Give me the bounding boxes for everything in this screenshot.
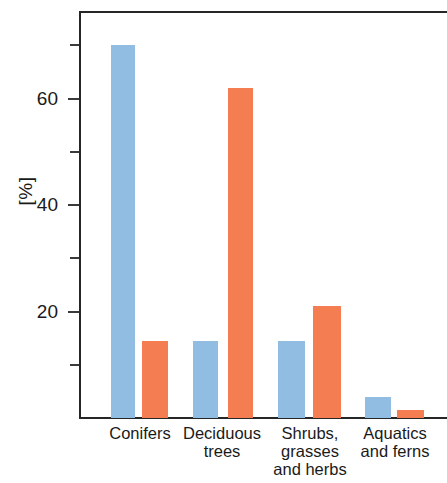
y-tick-minor <box>70 44 79 46</box>
x-axis-label: Aquatics and ferns <box>343 424 447 460</box>
y-tick-minor <box>70 364 79 366</box>
y-tick-minor <box>70 151 79 153</box>
y-tick-minor <box>70 257 79 259</box>
y-tick-label: 40 <box>14 195 58 214</box>
plot-area <box>79 11 447 419</box>
y-tick-major <box>68 204 79 206</box>
bar-chart: [%] 204060 ConifersDeciduous treesShrubs… <box>0 0 447 483</box>
y-tick-label: 20 <box>14 302 58 321</box>
y-tick-major <box>68 98 79 100</box>
y-tick-label: 60 <box>14 89 58 108</box>
y-tick-major <box>68 311 79 313</box>
x-axis-category-labels: ConifersDeciduous treesShrubs, grasses a… <box>79 424 447 483</box>
